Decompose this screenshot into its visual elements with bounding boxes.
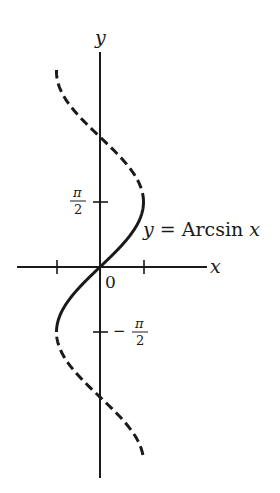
label-neg-pi-over-2: − π 2 — [113, 316, 148, 348]
label-pi-over-2: π 2 — [70, 185, 86, 217]
curve-annotation: y = Arcsin x — [142, 218, 260, 240]
svg-text:2: 2 — [136, 333, 144, 348]
y-axis-label: y — [94, 26, 106, 48]
svg-text:π: π — [134, 316, 144, 331]
origin-label: 0 — [105, 272, 116, 292]
svg-text:π: π — [72, 185, 82, 200]
arcsin-graph: y x 0 π 2 − π 2 y = Arcsin x — [0, 0, 280, 493]
x-axis-label: x — [210, 255, 221, 277]
svg-text:2: 2 — [74, 202, 82, 217]
svg-text:−: − — [113, 322, 126, 340]
